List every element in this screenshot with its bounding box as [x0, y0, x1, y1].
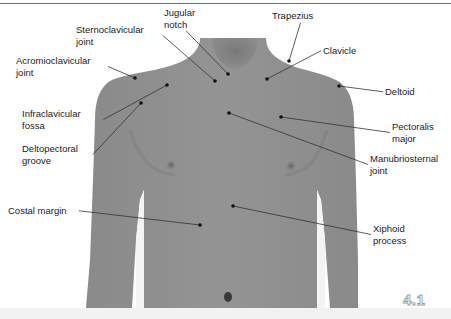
marker-dot-trapezius [287, 59, 291, 63]
marker-dot-infraclavicular-fossa [165, 83, 169, 87]
label-trapezius: Trapezius [272, 10, 313, 22]
marker-dot-pectoralis-major [279, 115, 283, 119]
leader-line-acromioclavicular-joint [108, 67, 135, 79]
label-deltoid: Deltoid [385, 86, 415, 98]
label-manubriosternal-joint: Manubriosternal joint [370, 153, 438, 176]
figure-number: 4.1 [403, 291, 425, 308]
marker-dot-costal-margin [198, 223, 202, 227]
leader-line-trapezius [289, 23, 301, 62]
label-jugular-notch: Jugular notch [164, 7, 195, 30]
anatomy-figure: Jugular notchTrapeziusSternoclavicular j… [0, 0, 451, 319]
marker-dot-acromioclavicular-joint [133, 76, 137, 80]
label-costal-margin: Costal margin [8, 205, 67, 217]
marker-dot-jugular-notch [226, 72, 230, 76]
marker-dot-xiphoid-process [231, 204, 235, 208]
bottom-fade [0, 308, 451, 319]
umbilicus [224, 292, 232, 302]
marker-dot-manubriosternal-joint [227, 111, 231, 115]
marker-dot-deltopectoral-groove [139, 101, 143, 105]
marker-dot-sternoclavicular-joint [213, 79, 217, 83]
marker-dot-deltoid [337, 84, 341, 88]
label-acromioclavicular-joint: Acromioclavicular joint [16, 55, 90, 78]
label-sternoclavicular-joint: Sternoclavicular joint [76, 24, 144, 47]
left-nipple [165, 159, 177, 171]
marker-dot-clavicle [265, 77, 269, 81]
label-infraclavicular-fossa: Infraclavicular fossa [22, 108, 81, 131]
label-xiphoid-process: Xiphoid process [373, 223, 406, 246]
label-deltopectoral-groove: Deltopectoral groove [22, 143, 78, 166]
label-pectoralis-major: Pectoralis major [392, 121, 434, 144]
label-clavicle: Clavicle [323, 45, 356, 57]
right-nipple [285, 160, 297, 172]
